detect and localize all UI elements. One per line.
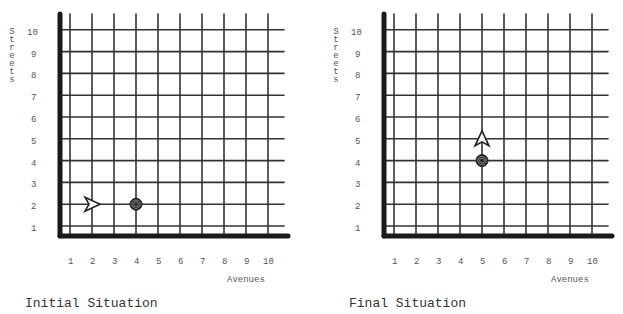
avenue-label: 2 [414, 258, 419, 267]
street-label: 4 [31, 160, 36, 169]
street-label: 8 [31, 72, 36, 81]
street-label: 6 [355, 116, 360, 125]
street-label: 7 [31, 94, 36, 103]
avenue-label: 3 [436, 258, 441, 267]
avenue-label: 8 [546, 258, 551, 267]
street-label: 9 [31, 51, 36, 60]
avenue-label: 5 [156, 258, 161, 267]
beeper-icon [476, 155, 488, 167]
avenue-label: 8 [222, 258, 227, 267]
streets-axis-label: Streets [8, 28, 16, 84]
street-label: 6 [31, 116, 36, 125]
avenue-label: 5 [480, 258, 485, 267]
street-label: 9 [355, 51, 360, 60]
street-label: 10 [27, 29, 38, 38]
beeper-icon [130, 198, 142, 210]
avenue-label: 9 [244, 258, 249, 267]
avenues-axis-label: Avenues [551, 275, 589, 285]
panel-caption: Initial Situation [25, 296, 158, 311]
street-label: 10 [351, 29, 362, 38]
avenue-label: 4 [134, 258, 139, 267]
panel-caption: Final Situation [349, 296, 466, 311]
avenues-axis-label: Avenues [227, 275, 265, 285]
avenue-label: 2 [90, 258, 95, 267]
street-label: 2 [355, 203, 360, 212]
avenue-label: 6 [178, 258, 183, 267]
street-label: 1 [355, 225, 360, 234]
avenue-label: 9 [568, 258, 573, 267]
avenue-label: 7 [200, 258, 205, 267]
avenue-label: 4 [458, 258, 463, 267]
street-label: 4 [355, 160, 360, 169]
avenue-label: 1 [68, 258, 73, 267]
street-label: 8 [355, 72, 360, 81]
street-label: 3 [355, 181, 360, 190]
avenue-label: 7 [524, 258, 529, 267]
final-situation-panel: 1234567891012345678910StreetsAvenuesFina… [324, 0, 623, 314]
avenue-label: 1 [392, 258, 397, 267]
streets-axis-label: Streets [332, 28, 340, 84]
street-label: 5 [31, 138, 36, 147]
avenue-label: 6 [502, 258, 507, 267]
street-label: 7 [355, 94, 360, 103]
avenue-label: 10 [263, 258, 274, 267]
street-label: 2 [31, 203, 36, 212]
street-label: 5 [355, 138, 360, 147]
street-label: 1 [31, 225, 36, 234]
initial-situation-panel: 1234567891012345678910StreetsAvenuesInit… [0, 0, 310, 314]
karel-world-grid [324, 0, 623, 250]
karel-world-grid [0, 0, 300, 250]
avenue-label: 3 [112, 258, 117, 267]
avenue-label: 10 [587, 258, 598, 267]
street-label: 3 [31, 181, 36, 190]
